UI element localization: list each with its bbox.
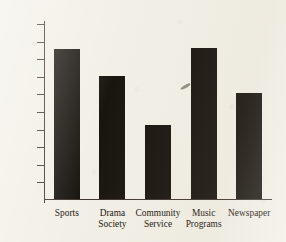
x-axis-line [44, 199, 272, 200]
bar-chart-figure: 10,0009,0008,0007,0006,0005,0004,0003,00… [0, 0, 286, 242]
y-axis-tick [37, 94, 45, 95]
category-label-line-2: Programs [186, 219, 222, 230]
x-axis-category-label: CommunityService [136, 208, 181, 231]
x-axis-category-label: Sports [55, 208, 79, 219]
category-label-line-1: Newspaper [228, 208, 270, 218]
y-axis-tick [37, 42, 45, 43]
x-axis-category-label: Newspaper [228, 208, 270, 219]
bar [145, 125, 171, 199]
y-axis-tick [37, 112, 45, 113]
y-axis-tick [37, 24, 45, 25]
y-axis-tick [37, 182, 45, 183]
y-axis-tick [37, 59, 45, 60]
category-label-line-1: Drama [100, 208, 126, 218]
bar [99, 76, 125, 199]
bar [236, 93, 262, 199]
bar [191, 48, 217, 199]
category-label-line-2: Service [136, 219, 181, 230]
plot-area: 10,0009,0008,0007,0006,0005,0004,0003,00… [44, 24, 272, 200]
bar [54, 49, 80, 199]
category-label-line-1: Community [136, 208, 181, 218]
y-axis-tick [37, 77, 45, 78]
y-axis-tick [37, 165, 45, 166]
y-axis-tick [37, 130, 45, 131]
category-label-line-2: Society [98, 219, 126, 230]
category-label-line-1: Music [192, 208, 215, 218]
category-label-line-1: Sports [55, 208, 79, 218]
y-axis-tick [37, 147, 45, 148]
x-axis-category-label: DramaSociety [98, 208, 126, 231]
x-axis-category-label: MusicPrograms [186, 208, 222, 231]
